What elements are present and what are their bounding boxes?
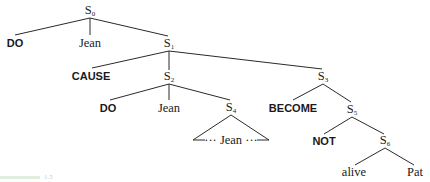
- node-s6: S6: [380, 134, 390, 148]
- node-s3: S3: [318, 70, 328, 84]
- node-s0: S0: [85, 4, 95, 18]
- leaf-do-mid: DO: [100, 103, 117, 114]
- leaf-cause: CAUSE: [72, 71, 111, 82]
- leaf-jean-top: Jean: [79, 37, 101, 50]
- leaf-alive: alive: [342, 166, 366, 179]
- leaf-become: BECOME: [269, 103, 317, 114]
- triangle-content: ··· Jean ···: [204, 134, 257, 147]
- tree-edges: [0, 0, 430, 182]
- node-s1: S1: [164, 37, 174, 51]
- caption-fragment: 1.5: [44, 173, 53, 181]
- node-s5: S5: [347, 103, 357, 117]
- node-s2: S2: [164, 70, 174, 84]
- node-s4: S4: [226, 101, 236, 115]
- caption-highlight: [0, 176, 40, 179]
- leaf-jean-mid: Jean: [158, 102, 180, 115]
- leaf-do-top: DO: [7, 38, 24, 49]
- leaf-not: NOT: [312, 136, 335, 147]
- leaf-pat: Pat: [407, 166, 423, 179]
